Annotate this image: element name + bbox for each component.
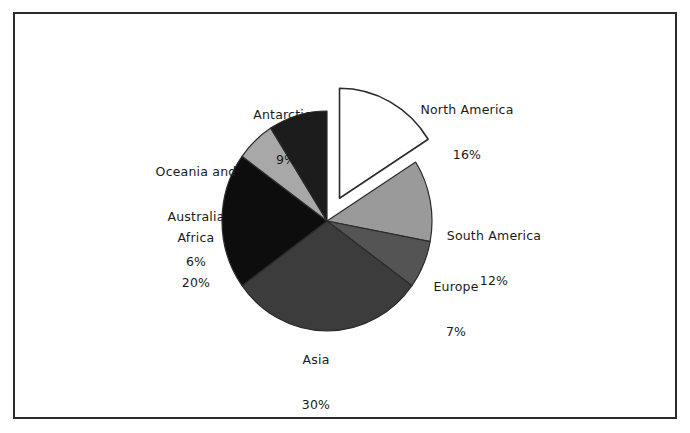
slice-label-asia-name: Asia xyxy=(266,352,366,367)
slice-label-asia: Asia 30% xyxy=(266,322,366,433)
slice-label-europe: Europe 7% xyxy=(406,249,506,369)
slice-label-north-america-value: 16% xyxy=(392,147,542,162)
slice-label-antarctica-value: 9% xyxy=(226,152,346,167)
slice-label-north-america-name: North America xyxy=(392,102,542,117)
pie-chart: North America 16% South America 12% Euro… xyxy=(0,0,690,433)
slice-label-oceania-value: 6% xyxy=(136,254,256,269)
slice-label-antarctica-name: Antarctica xyxy=(226,107,346,122)
slice-label-north-america: North America 16% xyxy=(392,72,542,192)
figure-canvas: North America 16% South America 12% Euro… xyxy=(0,0,690,433)
slice-label-europe-name: Europe xyxy=(406,279,506,294)
slice-label-south-america-name: South America xyxy=(424,228,564,243)
slice-label-europe-value: 7% xyxy=(406,324,506,339)
slice-label-antarctica: Antarctica 9% xyxy=(226,77,346,197)
slice-label-oceania-name-line2: Australia xyxy=(136,209,256,224)
slice-label-asia-value: 30% xyxy=(266,397,366,412)
